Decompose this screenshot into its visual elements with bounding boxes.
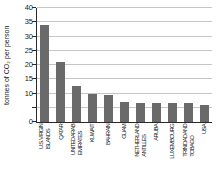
bar-slot bbox=[69, 8, 85, 122]
bar-5 bbox=[104, 95, 113, 122]
x-label-slot: LUXEMBOURG bbox=[164, 124, 180, 188]
y-tick-label-30: 30 bbox=[16, 33, 33, 41]
bar-10 bbox=[184, 103, 193, 122]
y-tick-label-0: 0 bbox=[16, 118, 33, 126]
y-tick-label-25: 25 bbox=[16, 47, 33, 55]
y-tick-mark-0 bbox=[32, 121, 36, 122]
x-category-label-4: KUWAIT bbox=[89, 124, 96, 142]
bar-8 bbox=[152, 103, 161, 122]
y-tick-label-40: 40 bbox=[16, 4, 33, 12]
bar-slot bbox=[85, 8, 101, 122]
x-category-label-11: USA bbox=[201, 124, 208, 134]
y-tick-label-10: 10 bbox=[16, 90, 33, 98]
bar-9 bbox=[168, 103, 177, 122]
y-axis-tick-labels: 010152025303540 bbox=[16, 8, 33, 122]
x-label-slot: BAHRAIN bbox=[101, 124, 117, 188]
bar-slot bbox=[148, 8, 164, 122]
y-tick-mark-35 bbox=[32, 21, 36, 22]
x-label-slot: UNITED ARAB EMIRATES bbox=[69, 124, 85, 188]
x-label-slot: KUWAIT bbox=[85, 124, 101, 188]
bar-slot bbox=[53, 8, 69, 122]
bar-slot bbox=[180, 8, 196, 122]
x-axis-category-labels: U.S. VIRGIN ISLANDSQATARUNITED ARAB EMIR… bbox=[37, 124, 212, 188]
x-label-slot: NETHERLAND ANTILLES bbox=[132, 124, 148, 188]
bar-slot bbox=[37, 8, 53, 122]
plot-area bbox=[36, 8, 212, 123]
x-category-label-3: UNITED ARAB EMIRATES bbox=[70, 124, 83, 155]
y-tick-mark-40 bbox=[32, 7, 36, 8]
x-label-slot: U.S. VIRGIN ISLANDS bbox=[37, 124, 53, 188]
bar-3 bbox=[72, 86, 81, 122]
bar-6 bbox=[120, 102, 129, 122]
bar-11 bbox=[200, 105, 209, 122]
bar-slot bbox=[101, 8, 117, 122]
x-category-label-9: LUXEMBOURG bbox=[169, 124, 176, 159]
bar-slot bbox=[117, 8, 133, 122]
x-category-label-7: NETHERLAND ANTILLES bbox=[134, 124, 147, 157]
bar-4 bbox=[88, 94, 97, 123]
y-tick-mark-25 bbox=[32, 50, 36, 51]
bar-slot bbox=[164, 8, 180, 122]
y-tick-mark-5 bbox=[32, 107, 36, 108]
y-tick-mark-30 bbox=[32, 36, 36, 37]
x-category-label-5: BAHRAIN bbox=[105, 124, 112, 145]
bar-2 bbox=[56, 62, 65, 122]
y-tick-label-35: 35 bbox=[16, 18, 33, 26]
y-tick-mark-20 bbox=[32, 64, 36, 65]
y-tick-mark-10 bbox=[32, 93, 36, 94]
x-label-slot: USA bbox=[196, 124, 212, 188]
bar-7 bbox=[136, 103, 145, 122]
co2-per-person-bar-chart: tonnes of CO₂ per person 010152025303540… bbox=[0, 0, 216, 190]
y-tick-mark-15 bbox=[32, 78, 36, 79]
bar-slot bbox=[196, 8, 212, 122]
y-tick-label-20: 20 bbox=[16, 61, 33, 69]
y-axis-title: tonnes of CO₂ per person bbox=[1, 8, 12, 122]
bar-slot bbox=[132, 8, 148, 122]
x-category-label-6: GUAM bbox=[121, 124, 128, 139]
y-tick-label-15: 15 bbox=[16, 75, 33, 83]
bar-1 bbox=[40, 25, 49, 122]
x-label-slot: GUAM bbox=[117, 124, 133, 188]
x-label-slot: ARUBA bbox=[148, 124, 164, 188]
x-category-label-8: ARUBA bbox=[153, 124, 160, 141]
x-category-label-10: TRINIDAD AND TOBAGO bbox=[182, 124, 195, 157]
x-label-slot: QATAR bbox=[53, 124, 69, 188]
bars-group bbox=[37, 8, 212, 122]
x-category-label-1: U.S. VIRGIN ISLANDS bbox=[38, 124, 51, 149]
x-category-label-2: QATAR bbox=[58, 124, 65, 140]
x-label-slot: TRINIDAD AND TOBAGO bbox=[180, 124, 196, 188]
